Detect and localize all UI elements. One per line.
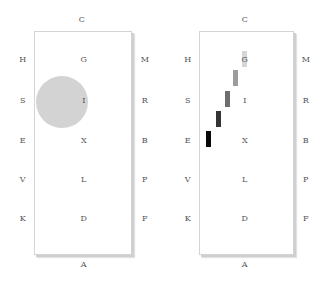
center-label: D — [242, 215, 249, 223]
left-row-label: V — [20, 176, 26, 184]
bar-marker-1 — [206, 131, 211, 147]
right-row-label: R — [303, 97, 310, 105]
right-bottom-label: A — [242, 261, 248, 269]
right-row-label: P — [142, 176, 148, 184]
left-row-label: S — [20, 97, 26, 105]
left-top-label: C — [79, 16, 86, 24]
left-row-label: H — [19, 56, 26, 64]
left-row-label: E — [20, 137, 26, 145]
left-row-label: V — [185, 176, 191, 184]
left-bottom-label: A — [81, 261, 87, 269]
bar-marker-2 — [216, 111, 221, 127]
right-row-label: F — [303, 215, 309, 223]
center-label: X — [81, 137, 87, 145]
right-row-label: P — [303, 176, 309, 184]
left-row-label: H — [184, 56, 191, 64]
right-row-label: F — [142, 215, 148, 223]
figure: C H S E V K G I X L D M R B P F A C H S … — [0, 0, 327, 282]
left-row-label: E — [185, 137, 191, 145]
center-label: G — [242, 56, 249, 64]
center-label: I — [243, 97, 247, 105]
right-row-label: M — [302, 56, 311, 64]
right-row-label: R — [142, 97, 149, 105]
center-label: I — [82, 97, 86, 105]
right-top-label: C — [242, 16, 249, 24]
right-row-label: M — [141, 56, 150, 64]
center-label: L — [81, 176, 87, 184]
center-label: L — [242, 176, 248, 184]
right-row-label: B — [142, 137, 148, 145]
left-row-label: K — [20, 215, 26, 223]
right-row-label: B — [303, 137, 309, 145]
bar-marker-3 — [225, 91, 230, 107]
center-label: X — [242, 137, 248, 145]
circle-marker — [36, 76, 88, 128]
left-row-label: S — [185, 97, 191, 105]
bar-marker-4 — [233, 70, 238, 86]
left-row-label: K — [185, 215, 191, 223]
center-label: D — [81, 215, 88, 223]
center-label: G — [81, 56, 88, 64]
